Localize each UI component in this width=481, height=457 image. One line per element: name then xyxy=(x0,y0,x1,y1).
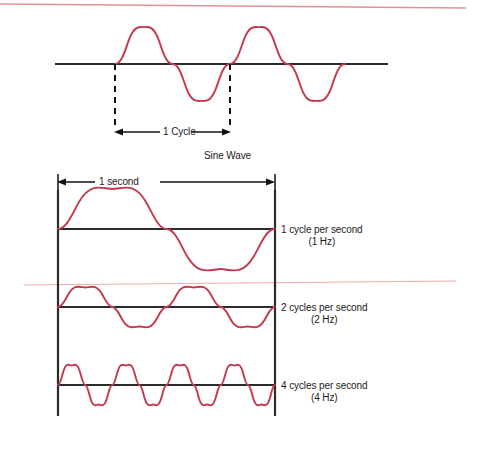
bottom-panel-group xyxy=(57,174,275,416)
top-panel-group xyxy=(55,27,388,135)
label-1hz: 1 cycle per second (1 Hz) xyxy=(281,224,363,248)
sine-wave-figure xyxy=(0,0,481,457)
scanline-top xyxy=(0,4,466,8)
label-1hz-line2: (1 Hz) xyxy=(281,236,363,248)
scanline-middle xyxy=(24,281,456,285)
figure-page: 1 Cycle Sine Wave 1 second 1 cycle per s… xyxy=(0,0,481,457)
label-2hz: 2 cycles per second (2 Hz) xyxy=(281,302,367,326)
label-4hz-line2: (4 Hz) xyxy=(281,392,367,404)
label-4hz: 4 cycles per second (4 Hz) xyxy=(281,380,367,404)
label-2hz-line2: (2 Hz) xyxy=(281,314,367,326)
second-dimension-arrow xyxy=(57,174,275,190)
cycle-label: 1 Cycle xyxy=(163,126,196,138)
label-2hz-line1: 2 cycles per second xyxy=(281,302,367,314)
second-label: 1 second xyxy=(99,176,139,188)
sine-wave-caption: Sine Wave xyxy=(204,150,251,162)
label-1hz-line1: 1 cycle per second xyxy=(281,224,363,236)
label-4hz-line1: 4 cycles per second xyxy=(281,380,367,392)
